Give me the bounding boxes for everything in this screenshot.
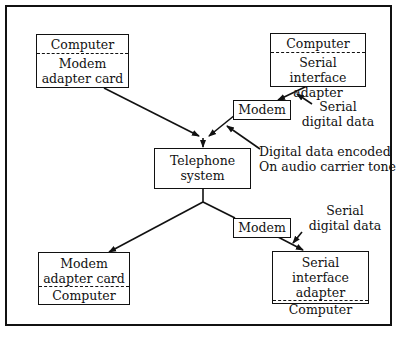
computer-label: Computer xyxy=(271,34,365,52)
bottom-right-computer-box: Serial interface adapter Computer xyxy=(272,251,369,304)
top-right-computer-box: Computer Serial interface adapter xyxy=(270,33,366,87)
computer-label: Computer xyxy=(37,35,128,53)
telephone-system-box: Telephone system xyxy=(154,148,251,189)
serial-interface-adapter-label: Serial interface adapter xyxy=(271,52,365,100)
computer-label: Computer xyxy=(273,300,368,317)
top-left-computer-box: Computer Modem adapter card xyxy=(36,34,129,88)
modem-top-box: Modem xyxy=(233,100,291,120)
encoded-data-annotation: Digital data encoded On audio carrier to… xyxy=(259,144,384,174)
serial-digital-data-annotation-bottom: Serial digital data xyxy=(305,203,385,233)
bottom-left-computer-box: Modem adapter card Computer xyxy=(38,252,130,305)
computer-label: Computer xyxy=(39,286,129,303)
serial-digital-data-annotation-top: Serial digital data xyxy=(298,99,378,129)
modem-adapter-card-label: Modem adapter card xyxy=(37,53,128,86)
modem-bottom-box: Modem xyxy=(233,218,291,238)
